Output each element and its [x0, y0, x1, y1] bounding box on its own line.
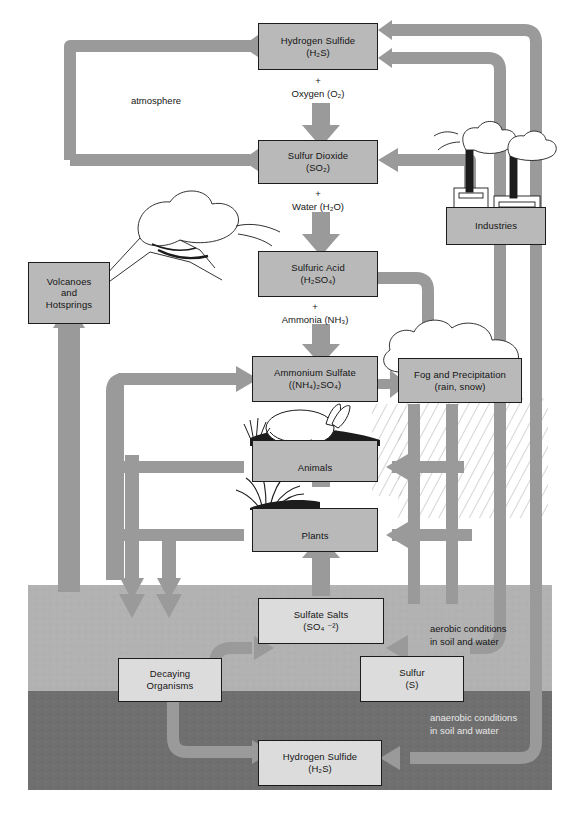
arrow-head-h2s-left — [242, 35, 258, 57]
column-left-thin — [112, 380, 124, 580]
node-line-2: and — [61, 287, 77, 299]
arrowhead-so2-right — [378, 148, 398, 172]
node-line-2: (SO₄ ⁻²) — [303, 621, 339, 633]
node-plants[interactable]: Plants — [252, 508, 378, 552]
node-line-2: (S) — [406, 679, 419, 691]
node-line-1: Animals — [298, 462, 333, 474]
node-line-1: Sulfur Dioxide — [288, 150, 349, 162]
node-line-2: (rain, snow) — [435, 381, 486, 393]
reaction-label-oxygen: + Oxygen (O₂) — [258, 75, 378, 100]
node-line-1: Sulfuric Acid — [291, 262, 345, 274]
column-volcano — [58, 300, 80, 592]
node-fog-and-precipitation[interactable]: Fog and Precipitation (rain, snow) — [398, 358, 522, 403]
plus-sign: + — [315, 75, 321, 86]
reaction-label-water: + Water (H₂O) — [258, 188, 378, 213]
plus-sign: + — [312, 301, 318, 312]
node-line-2: (H₂SO₄) — [300, 274, 335, 286]
node-line-2: (SO₂) — [306, 162, 330, 174]
node-line-3: Hotsprings — [46, 299, 92, 311]
node-hydrogen-sulfide-soil[interactable]: Hydrogen Sulfide (H₂S) — [258, 740, 382, 786]
volcano-illustration — [92, 191, 280, 292]
node-line-1: Plants — [301, 530, 328, 542]
arrow-head-h2s-top-right-2 — [378, 48, 392, 68]
node-line-1: Ammonium Sulfate — [274, 367, 356, 379]
node-line-1: Industries — [475, 220, 517, 232]
anaerobic-line-2: in soil and water — [430, 725, 499, 736]
reagent-ammonia: Ammonia (NH₃) — [282, 314, 349, 325]
node-line-2: (H₂S) — [306, 47, 330, 59]
node-line-2: ((NH₄)₂SO₄) — [289, 379, 342, 391]
sulfur-cycle-diagram: Hydrogen Sulfide (H₂S) Sulfur Dioxide (S… — [0, 0, 576, 816]
label-aerobic-conditions: aerobic conditions in soil and water — [430, 623, 507, 648]
reagent-oxygen: Oxygen (O₂) — [292, 88, 345, 99]
node-animals[interactable]: Animals — [252, 440, 378, 482]
node-line-1: Sulfate Salts — [294, 609, 349, 621]
soil-crossing-columns — [58, 300, 124, 592]
node-line-2: Organisms — [147, 680, 194, 692]
node-sulfur[interactable]: Sulfur (S) — [360, 656, 464, 702]
node-ammonium-sulfate[interactable]: Ammonium Sulfate ((NH₄)₂SO₄) — [252, 356, 378, 402]
anaerobic-line-1: anaerobic conditions — [430, 712, 517, 723]
arrow-so2-to-h2so4 — [302, 212, 340, 256]
node-sulfuric-acid[interactable]: Sulfuric Acid (H₂SO₄) — [258, 251, 378, 297]
reagent-water: Water (H₂O) — [292, 201, 344, 212]
arrowhead-plants-right — [386, 522, 408, 548]
reaction-label-ammonia: + Ammonia (NH₃) — [252, 301, 378, 326]
arrow-head-so2-left — [242, 149, 258, 171]
label-atmosphere: atmosphere — [96, 95, 216, 108]
node-line-1: Decaying — [150, 668, 190, 680]
node-industries[interactable]: Industries — [446, 207, 546, 245]
node-line-1: Sulfur — [399, 667, 424, 679]
node-line-1: Hydrogen Sulfide — [283, 751, 357, 763]
pipe-animals-down — [125, 455, 139, 580]
node-line-2: (H₂S) — [308, 763, 332, 775]
node-volcanoes-and-hotsprings[interactable]: Volcanoes and Hotsprings — [28, 262, 110, 324]
node-line-1: Hydrogen Sulfide — [281, 35, 355, 47]
label-anaerobic-conditions: anaerobic conditions in soil and water — [430, 712, 517, 737]
aerobic-line-2: in soil and water — [430, 636, 499, 647]
node-hydrogen-sulfide-air[interactable]: Hydrogen Sulfide (H₂S) — [258, 23, 378, 70]
node-sulfur-dioxide[interactable]: Sulfur Dioxide (SO₂) — [258, 140, 378, 184]
diagram-canvas — [0, 0, 576, 816]
node-decaying-organisms[interactable]: Decaying Organisms — [118, 658, 222, 702]
node-line-1: Volcanoes — [47, 276, 92, 288]
plus-sign: + — [315, 188, 321, 199]
node-line-1: Fog and Precipitation — [414, 369, 506, 381]
aerobic-line-1: aerobic conditions — [430, 623, 507, 634]
node-sulfate-salts[interactable]: Sulfate Salts (SO₄ ⁻²) — [258, 598, 384, 644]
